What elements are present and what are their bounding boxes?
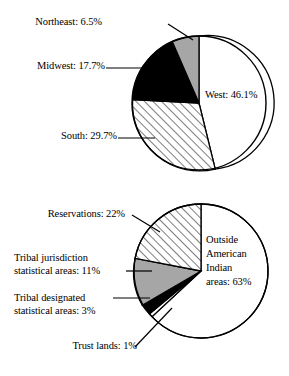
label-reservations: Reservations: 22% (10, 208, 125, 221)
pie-chart-figure: Northeast: 6.5% Midwest: 17.7% South: 29… (0, 0, 289, 376)
label-trust-lands: Trust lands: 1% (27, 340, 137, 353)
american-indian-areas-chart: Reservations: 22% Tribal jurisdiction st… (0, 188, 289, 376)
label-northeast: Northeast: 6.5% (0, 16, 102, 29)
label-west: West: 46.1% (205, 89, 289, 102)
label-south: South: 29.7% (12, 130, 117, 143)
label-outside-line2: American (206, 248, 288, 261)
label-tribal-designated-line2: statistical areas: 3% (14, 305, 144, 318)
label-outside-line3: Indian (206, 262, 288, 275)
label-outside-line1: Outside (206, 234, 288, 247)
leader-line-northeast (168, 24, 193, 40)
region-distribution-chart: Northeast: 6.5% Midwest: 17.7% South: 29… (0, 0, 289, 188)
label-tribal-jurisdiction-line1: Tribal jurisdiction (14, 252, 136, 265)
label-tribal-jurisdiction-line2: statistical areas: 11% (14, 265, 144, 278)
label-tribal-designated-line1: Tribal designated (14, 292, 134, 305)
label-midwest: Midwest: 17.7% (0, 60, 105, 73)
label-outside-line4: areas: 63% (206, 276, 288, 289)
